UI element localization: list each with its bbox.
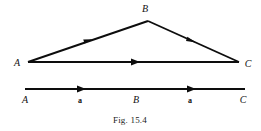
collinear-label-a: A <box>21 94 29 105</box>
triangle-vertex-label-c: C <box>245 58 252 69</box>
edge-bc-arrowhead <box>186 37 196 43</box>
edge-ac-arrowhead <box>131 59 140 66</box>
collinear-label-b: B <box>133 94 139 105</box>
collinear-line-group: A a B a C <box>21 86 247 105</box>
collinear-magnitude-right: a <box>188 96 192 105</box>
triangle-vertex-label-b: B <box>142 3 148 14</box>
collinear-arrowhead-left <box>77 86 86 93</box>
collinear-label-c: C <box>240 94 247 105</box>
collinear-magnitude-left: a <box>78 96 82 105</box>
vector-triangle-diagram: A B C A a B a C Fig. 15.4 <box>0 0 261 131</box>
triangle-group: A B C <box>13 3 252 69</box>
collinear-arrowhead-right <box>187 86 196 93</box>
figure-container: A B C A a B a C Fig. 15.4 <box>0 0 261 131</box>
figure-caption: Fig. 15.4 <box>113 115 147 125</box>
edge-ab-arrowhead <box>83 39 92 43</box>
triangle-vertex-label-a: A <box>13 57 21 68</box>
